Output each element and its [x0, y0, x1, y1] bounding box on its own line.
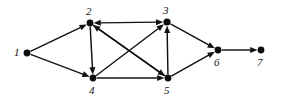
edge-line [90, 27, 92, 68]
graph-node-label-3: 3 [163, 5, 169, 16]
edge-2-to-4 [89, 27, 95, 75]
edge-1-to-4 [31, 54, 90, 77]
graph-node-7[interactable] [258, 47, 265, 54]
edge-layer [30, 19, 257, 81]
arrowhead-icon [164, 26, 170, 33]
arrowhead-icon [157, 75, 164, 81]
graph-node-5[interactable] [165, 75, 172, 82]
graph-node-6[interactable] [215, 47, 222, 54]
edge-5-to-3 [164, 26, 170, 74]
graph-node-1[interactable] [24, 50, 31, 57]
arrowhead-icon [82, 71, 90, 77]
graph-node-4[interactable] [90, 75, 97, 82]
edge-5-to-6 [171, 52, 215, 76]
graph-node-label-6: 6 [214, 57, 220, 68]
edge-line [96, 28, 159, 75]
edge-2-to-3-bidirectional [94, 19, 164, 26]
graph-node-label-2: 2 [86, 6, 92, 17]
edge-5-to-2 [93, 25, 165, 76]
edge-4-to-5 [97, 75, 165, 81]
arrowhead-icon [93, 25, 101, 32]
edge-line [30, 27, 80, 51]
edge-line [171, 55, 209, 76]
edge-line [171, 24, 210, 45]
graph-node-3[interactable] [163, 18, 170, 25]
graph-node-label-5: 5 [164, 85, 170, 96]
edge-6-to-7 [222, 47, 258, 53]
graph-node-label-1: 1 [14, 47, 20, 58]
edge-line [100, 22, 156, 23]
arrowhead-icon [89, 67, 95, 74]
graph-node-2[interactable] [87, 20, 94, 27]
edge-line [31, 54, 84, 74]
graph-node-label-4: 4 [89, 85, 95, 96]
arrowhead-icon [156, 19, 163, 25]
arrowhead-icon [94, 20, 101, 26]
edge-1-to-2 [30, 25, 86, 52]
edge-line [167, 32, 168, 74]
graph-canvas [0, 0, 281, 105]
graph-node-label-7: 7 [257, 57, 263, 68]
arrowhead-icon [250, 47, 257, 53]
edge-3-to-6 [171, 24, 215, 48]
graph-figure: 1234567 [0, 0, 281, 105]
edge-line [98, 29, 165, 76]
